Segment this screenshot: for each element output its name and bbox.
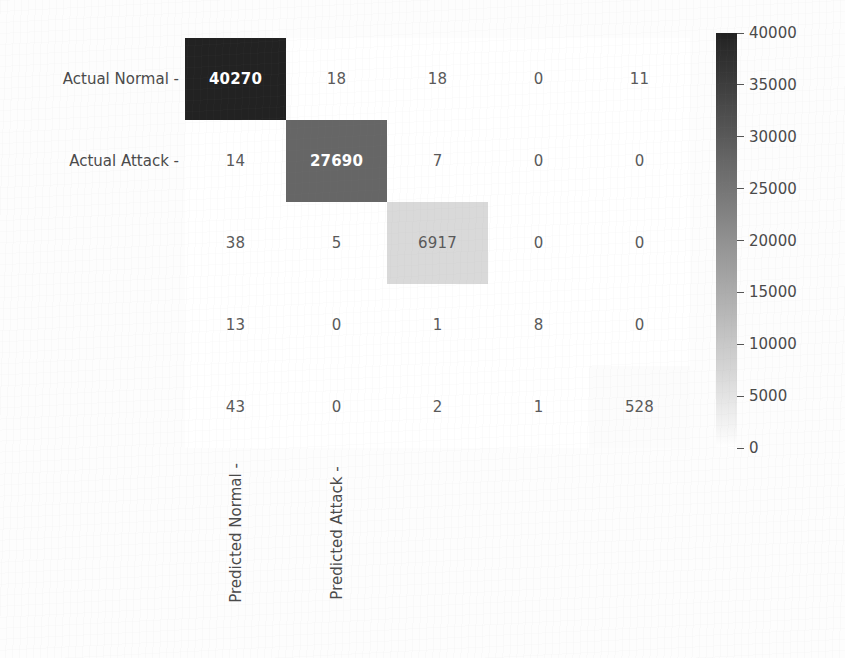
heatmap-cell-value: 0 (534, 236, 544, 251)
colorbar-tick-label: 25000 (749, 180, 797, 198)
heatmap-cell-r0-c2: 18 (387, 38, 488, 120)
colorbar-tick-25000: 25000 (737, 181, 797, 197)
heatmap-cell-r0-c1: 18 (286, 38, 387, 120)
heatmap-cell-value: 11 (630, 72, 650, 87)
colorbar-tick-mark (737, 240, 744, 241)
heatmap-cell-value: 13 (226, 318, 246, 333)
heatmap-cell-r3-c1: 0 (286, 284, 387, 366)
colorbar-tick-label: 10000 (749, 335, 797, 353)
heatmap-cell-r2-c4: 0 (589, 202, 690, 284)
heatmap-cell-r0-c3: 0 (488, 38, 589, 120)
heatmap-cell-r1-c0: 14 (185, 120, 286, 202)
colorbar-tick-40000: 40000 (737, 25, 797, 41)
heatmap-cell-value: 0 (534, 72, 544, 87)
heatmap-cell-r3-c2: 1 (387, 284, 488, 366)
heatmap-cell-value: 27690 (310, 154, 363, 169)
colorbar-tick-mark (737, 84, 744, 85)
colorbar-tick-label: 30000 (749, 128, 797, 146)
heatmap-cell-r3-c4: 0 (589, 284, 690, 366)
colorbar: 4000035000300002500020000150001000050000 (716, 33, 836, 448)
heatmap-cell-value: 0 (534, 154, 544, 169)
heatmap-cell-value: 5 (332, 236, 342, 251)
heatmap-cell-value: 18 (327, 72, 347, 87)
heatmap-cell-r2-c3: 0 (488, 202, 589, 284)
heatmap-cell-value: 0 (635, 154, 645, 169)
heatmap-cell-value: 40270 (209, 72, 262, 87)
y-axis-tick-labels: Actual Normal - Actual Attack - (0, 38, 185, 448)
heatmap-cell-value: 0 (635, 236, 645, 251)
heatmap-cell-r1-c1: 27690 (286, 120, 387, 202)
heatmap-cell-value: 38 (226, 236, 246, 251)
heatmap-cell-value: 18 (428, 72, 448, 87)
heatmap-cell-r4-c3: 1 (488, 366, 589, 448)
colorbar-tick-35000: 35000 (737, 77, 797, 93)
heatmap-cell-value: 0 (332, 400, 342, 415)
colorbar-tick-10000: 10000 (737, 336, 797, 352)
colorbar-tick-label: 40000 (749, 24, 797, 42)
heatmap-cell-r1-c4: 0 (589, 120, 690, 202)
heatmap-cell-value: 6917 (418, 236, 457, 251)
heatmap-cell-r0-c4: 11 (589, 38, 690, 120)
heatmap-cell-r1-c3: 0 (488, 120, 589, 202)
heatmap-cell-r4-c4: 528 (589, 366, 690, 448)
heatmap-cell-value: 2 (433, 400, 443, 415)
x-tick-label-1: Predicted Attack - (286, 452, 387, 642)
y-tick-label-1: Actual Attack - (69, 120, 179, 202)
heatmap-cell-value: 8 (534, 318, 544, 333)
x-tick-label-1-text: Predicted Attack - (328, 466, 346, 599)
colorbar-tick-30000: 30000 (737, 129, 797, 145)
heatmap-cell-value: 14 (226, 154, 246, 169)
heatmap-cell-r4-c0: 43 (185, 366, 286, 448)
colorbar-tick-15000: 15000 (737, 284, 797, 300)
x-tick-label-4 (589, 452, 690, 642)
colorbar-tick-mark (737, 396, 744, 397)
colorbar-tick-label: 35000 (749, 76, 797, 94)
heatmap-cell-r0-c0: 40270 (185, 38, 286, 120)
heatmap-cell-r2-c2: 6917 (387, 202, 488, 284)
colorbar-tick-label: 0 (749, 439, 759, 457)
x-tick-label-2 (387, 452, 488, 642)
heatmap-grid: 4027018180111427690700385691700130180430… (185, 38, 690, 448)
y-tick-label-0: Actual Normal - (63, 38, 179, 120)
heatmap-cell-r4-c1: 0 (286, 366, 387, 448)
heatmap-cell-value: 0 (635, 318, 645, 333)
heatmap-cell-value: 43 (226, 400, 246, 415)
heatmap-cell-value: 1 (534, 400, 544, 415)
colorbar-tick-mark (737, 136, 744, 137)
heatmap-cell-r2-c1: 5 (286, 202, 387, 284)
colorbar-tick-20000: 20000 (737, 233, 797, 249)
heatmap-cell-r3-c3: 8 (488, 284, 589, 366)
colorbar-tick-label: 5000 (749, 387, 787, 405)
heatmap-cell-value: 528 (625, 400, 654, 415)
heatmap-cell-value: 0 (332, 318, 342, 333)
colorbar-tick-mark (737, 292, 744, 293)
x-tick-label-0: Predicted Normal - (185, 452, 286, 642)
heatmap-cell-r1-c2: 7 (387, 120, 488, 202)
x-axis-tick-labels: Predicted Normal - Predicted Attack - (185, 452, 690, 652)
colorbar-tick-mark (737, 344, 744, 345)
colorbar-tick-label: 15000 (749, 283, 797, 301)
colorbar-tick-mark (737, 33, 744, 34)
heatmap-cell-r3-c0: 13 (185, 284, 286, 366)
colorbar-tick-label: 20000 (749, 232, 797, 250)
heatmap-cell-value: 7 (433, 154, 443, 169)
x-tick-label-3 (488, 452, 589, 642)
colorbar-tick-0: 0 (737, 440, 759, 456)
colorbar-tick-5000: 5000 (737, 388, 787, 404)
colorbar-tick-mark (737, 188, 744, 189)
colorbar-gradient (716, 33, 737, 448)
heatmap-cell-r2-c0: 38 (185, 202, 286, 284)
heatmap-cell-value: 1 (433, 318, 443, 333)
confusion-matrix-figure: Actual Normal - Actual Attack - 40270181… (0, 0, 845, 658)
colorbar-tick-labels: 4000035000300002500020000150001000050000 (737, 33, 836, 448)
colorbar-tick-mark (737, 448, 744, 449)
heatmap-cell-r4-c2: 2 (387, 366, 488, 448)
x-tick-label-0-text: Predicted Normal - (227, 463, 245, 603)
